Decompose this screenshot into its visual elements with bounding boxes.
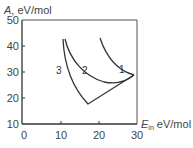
y-tick-label: 20: [7, 92, 19, 104]
x-tick-label: 0: [21, 129, 27, 141]
curve-label-1: 1: [119, 64, 125, 75]
curve-label-3: 3: [56, 65, 62, 76]
y-tick-label: 10: [7, 118, 19, 130]
y-tick-label: 40: [7, 40, 19, 52]
curve-label-2: 2: [82, 65, 88, 76]
curve-1: [100, 38, 134, 75]
y-tick-label: 30: [7, 66, 19, 78]
x-axis-label: Ein eV/mol: [141, 118, 191, 131]
y-axis-label: A, eV/mol: [3, 4, 52, 16]
x-tick-label: 30: [131, 129, 143, 141]
curve-2: [65, 39, 134, 83]
x-tick-label: 20: [93, 129, 105, 141]
chart: 50 40 30 20 10 0 10 20 30 A, eV/mol Ein …: [0, 0, 193, 148]
x-tick-label: 10: [55, 129, 67, 141]
